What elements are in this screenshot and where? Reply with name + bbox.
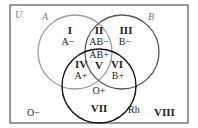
region-ii-type: AB− bbox=[89, 36, 109, 47]
set-b-label: B bbox=[148, 11, 154, 22]
region-iii-label: III bbox=[120, 24, 133, 36]
region-v-label: V bbox=[95, 59, 103, 71]
set-a-label: A bbox=[41, 11, 49, 22]
region-i-type: A− bbox=[62, 36, 75, 47]
set-rh-label: Rh bbox=[128, 104, 140, 115]
region-ii-label: II bbox=[95, 24, 104, 36]
venn-diagram: U A B Rh I A− II AB− III B− IV A+ AB+ V … bbox=[0, 0, 198, 128]
region-iii-type: B− bbox=[119, 36, 132, 47]
region-vii-label: VII bbox=[91, 102, 108, 114]
region-viii-label: VIII bbox=[154, 106, 175, 118]
region-iv-label: IV bbox=[75, 58, 87, 70]
region-vi-label: VI bbox=[111, 58, 123, 70]
region-viii-type: O− bbox=[27, 107, 40, 118]
region-vii-type: O+ bbox=[93, 85, 106, 96]
region-vi-type: B+ bbox=[112, 70, 125, 81]
universe-label: U bbox=[15, 9, 23, 20]
region-iv-type: A+ bbox=[75, 70, 88, 81]
region-i-label: I bbox=[68, 24, 72, 36]
